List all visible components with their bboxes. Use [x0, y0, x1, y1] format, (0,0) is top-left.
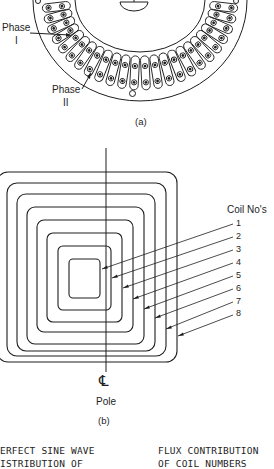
coil-number-4: 4	[236, 258, 241, 267]
phase2-label: Phase	[52, 85, 80, 95]
coil-number-5: 5	[236, 271, 241, 280]
flux-contribution-text-line1: FLUX CONTRIBUTION	[158, 446, 259, 456]
coil-number-2: 2	[236, 232, 241, 241]
coil-number-3: 3	[236, 245, 241, 254]
coil-heading: Coil No's	[227, 205, 267, 215]
coil-arrowheads	[102, 266, 184, 337]
sine-wave-text-line2: ISTRIBUTION OF	[0, 459, 83, 469]
phase1-numeral: I	[15, 36, 18, 46]
stator-slots	[42, 1, 238, 90]
concentric-coils	[0, 172, 177, 362]
coil-number-1: 1	[236, 219, 241, 228]
figure-a-caption: (a)	[135, 117, 147, 127]
phase1-label: Phase	[2, 23, 30, 33]
coil-number-8: 8	[236, 309, 241, 318]
sine-wave-text-line1: ERFECT SINE WAVE	[0, 446, 95, 456]
flux-contribution-text-line2: OF COIL NUMBERS	[158, 459, 247, 469]
phase2-numeral: II	[63, 98, 69, 108]
mounting-hole-icon	[130, 91, 136, 97]
centerline-icon: ℄	[99, 373, 109, 388]
rotor-shaft-icon	[120, 2, 148, 11]
pole-label: Pole	[96, 397, 116, 407]
coil-number-6: 6	[236, 284, 241, 293]
figure-b-caption: (b)	[98, 416, 110, 426]
coil-number-7: 7	[236, 297, 241, 306]
